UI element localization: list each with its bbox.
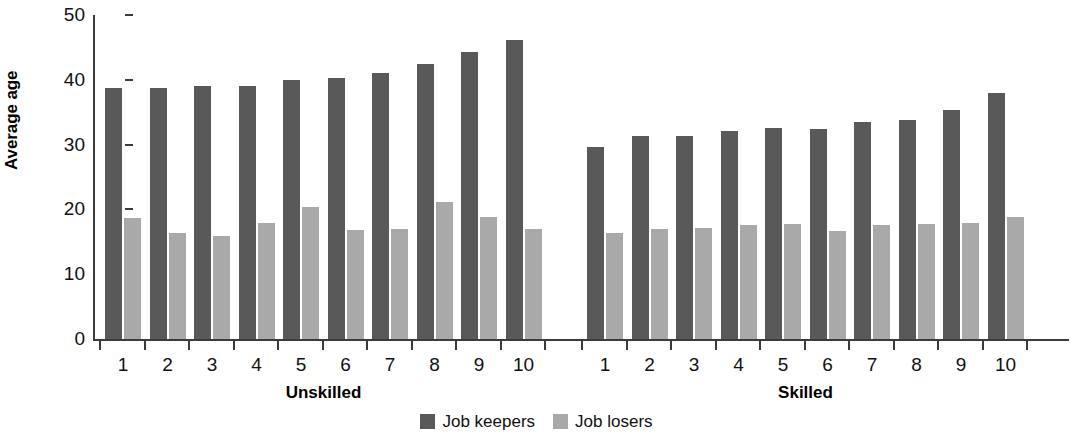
x-tick-mark-skilled-3 (670, 341, 672, 350)
x-tick-label-unskilled-2: 2 (148, 355, 188, 375)
x-tick-mark-unskilled-6 (322, 341, 324, 350)
x-tick-mark-unskilled-1 (99, 341, 101, 350)
bar-unskilled-4-job-losers (258, 223, 275, 339)
x-tick-label-unskilled-7: 7 (370, 355, 410, 375)
group-label-skilled: Skilled (656, 383, 956, 403)
x-tick-label-skilled-4: 4 (719, 355, 759, 375)
x-tick-label-skilled-9: 9 (941, 355, 981, 375)
x-tick-label-skilled-3: 3 (674, 355, 714, 375)
x-tick-mark-skilled-1 (581, 341, 583, 350)
bar-skilled-4-job-keepers (721, 131, 738, 339)
bar-unskilled-10-job-keepers (506, 40, 523, 339)
y-axis-ticks: 01020304050 (40, 0, 85, 446)
x-tick-label-unskilled-9: 9 (459, 355, 499, 375)
bar-unskilled-6-job-keepers (328, 78, 345, 339)
x-tick-label-skilled-7: 7 (852, 355, 892, 375)
x-tick-mark-skilled-8 (893, 341, 895, 350)
x-tick-label-unskilled-6: 6 (326, 355, 366, 375)
y-tick-label-50: 50 (45, 5, 85, 24)
x-tick-mark-unskilled-8 (411, 341, 413, 350)
y-tick-label-40: 40 (45, 70, 85, 89)
chart-legend: Job keepersJob losers (0, 413, 1073, 430)
bar-unskilled-3-job-keepers (194, 86, 211, 339)
bar-skilled-9-job-losers (962, 223, 979, 339)
x-tick-mark-unskilled-end (544, 341, 546, 350)
bar-skilled-3-job-keepers (676, 136, 693, 339)
x-tick-label-unskilled-5: 5 (281, 355, 321, 375)
bar-unskilled-9-job-losers (480, 217, 497, 339)
legend-swatch-icon-0 (420, 414, 435, 429)
x-tick-label-unskilled-4: 4 (237, 355, 277, 375)
bar-skilled-10-job-keepers (988, 93, 1005, 339)
bar-unskilled-7-job-losers (391, 229, 408, 339)
bar-skilled-10-job-losers (1007, 217, 1024, 339)
bar-unskilled-6-job-losers (347, 230, 364, 340)
y-axis-title: Average age (2, 50, 22, 170)
bar-unskilled-7-job-keepers (372, 73, 389, 339)
legend-swatch-icon-1 (553, 414, 568, 429)
x-tick-mark-unskilled-7 (366, 341, 368, 350)
bar-skilled-8-job-losers (918, 224, 935, 339)
x-tick-mark-skilled-10 (982, 341, 984, 350)
bar-unskilled-1-job-losers (124, 218, 141, 339)
x-tick-mark-unskilled-3 (188, 341, 190, 350)
x-tick-mark-skilled-7 (848, 341, 850, 350)
bar-skilled-5-job-losers (784, 224, 801, 339)
x-tick-label-unskilled-8: 8 (415, 355, 455, 375)
legend-item-job-losers: Job losers (553, 413, 652, 430)
bar-skilled-1-job-losers (606, 233, 623, 339)
bar-skilled-6-job-keepers (810, 129, 827, 339)
x-tick-label-skilled-8: 8 (897, 355, 937, 375)
bar-unskilled-2-job-keepers (150, 88, 167, 339)
bar-skilled-8-job-keepers (899, 120, 916, 339)
y-tick-label-30: 30 (45, 135, 85, 154)
bar-skilled-7-job-losers (873, 225, 890, 339)
y-tick-label-10: 10 (45, 264, 85, 283)
x-tick-mark-skilled-4 (715, 341, 717, 350)
bar-unskilled-10-job-losers (525, 229, 542, 339)
bar-unskilled-4-job-keepers (239, 86, 256, 339)
bar-unskilled-9-job-keepers (461, 52, 478, 339)
x-tick-mark-unskilled-2 (144, 341, 146, 350)
x-tick-label-skilled-1: 1 (585, 355, 625, 375)
bar-unskilled-8-job-losers (436, 202, 453, 339)
bar-unskilled-2-job-losers (169, 233, 186, 339)
bar-skilled-9-job-keepers (943, 110, 960, 339)
x-tick-mark-skilled-6 (804, 341, 806, 350)
x-tick-mark-skilled-9 (937, 341, 939, 350)
plot-area (95, 15, 1069, 339)
bar-unskilled-1-job-keepers (105, 88, 122, 339)
bar-skilled-2-job-losers (651, 229, 668, 339)
bar-unskilled-8-job-keepers (417, 64, 434, 339)
legend-item-job-keepers: Job keepers (420, 413, 535, 430)
bar-skilled-3-job-losers (695, 228, 712, 339)
x-tick-mark-skilled-5 (759, 341, 761, 350)
bar-skilled-4-job-losers (740, 225, 757, 339)
x-tick-mark-unskilled-4 (233, 341, 235, 350)
bar-unskilled-5-job-losers (302, 207, 319, 339)
y-tick-label-0: 0 (45, 329, 85, 348)
group-label-unskilled: Unskilled (174, 383, 474, 403)
x-tick-label-skilled-5: 5 (763, 355, 803, 375)
legend-label-0: Job keepers (442, 413, 535, 430)
legend-label-1: Job losers (575, 413, 652, 430)
bar-chart: Average age 01020304050 Job keepersJob l… (0, 0, 1073, 446)
bar-skilled-1-job-keepers (587, 147, 604, 339)
x-tick-label-unskilled-10: 10 (504, 355, 544, 375)
x-tick-mark-unskilled-9 (455, 341, 457, 350)
x-tick-label-skilled-10: 10 (986, 355, 1026, 375)
bar-unskilled-3-job-losers (213, 236, 230, 339)
bar-skilled-7-job-keepers (854, 122, 871, 339)
y-tick-label-20: 20 (45, 199, 85, 218)
bar-unskilled-5-job-keepers (283, 80, 300, 339)
x-tick-mark-skilled-end (1026, 341, 1028, 350)
x-tick-label-unskilled-3: 3 (192, 355, 232, 375)
x-tick-label-unskilled-1: 1 (103, 355, 143, 375)
x-tick-mark-unskilled-10 (500, 341, 502, 350)
x-tick-label-skilled-2: 2 (630, 355, 670, 375)
bar-skilled-5-job-keepers (765, 128, 782, 339)
x-tick-label-skilled-6: 6 (808, 355, 848, 375)
x-tick-mark-skilled-2 (626, 341, 628, 350)
bar-skilled-6-job-losers (829, 231, 846, 339)
x-tick-mark-unskilled-5 (277, 341, 279, 350)
